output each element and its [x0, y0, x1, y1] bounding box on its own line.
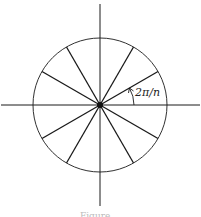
roots-of-unity-diagram: 2π/n Figure — [0, 0, 201, 217]
angle-label: 2π/n — [134, 86, 160, 99]
figure-caption: Figure — [80, 211, 110, 217]
origin-dot — [97, 102, 103, 108]
